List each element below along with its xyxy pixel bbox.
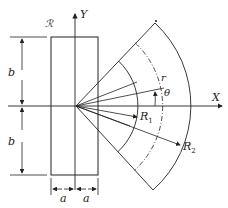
x-axis-label: X xyxy=(211,91,221,104)
dimension-b-bottom-label: b xyxy=(8,135,15,148)
dashed-arc xyxy=(135,43,163,170)
y-axis-label: Y xyxy=(80,8,89,21)
ray-lower-inner xyxy=(76,106,130,126)
ray-r xyxy=(76,88,164,106)
diagram-canvas: ℛ Y X b b a a r θ R1 R2 xyxy=(0,0,228,208)
dimension-a-left-label: a xyxy=(60,192,67,205)
R2-label: R2 xyxy=(182,140,196,155)
R1-label: R1 xyxy=(139,110,153,125)
region-label: ℛ xyxy=(45,18,54,29)
outer-arc xyxy=(153,23,191,190)
theta-label: θ xyxy=(164,87,170,98)
ray-upper-inner xyxy=(76,82,137,106)
sector-edge-upper xyxy=(76,23,155,106)
dimension-a-right-label: a xyxy=(83,192,90,205)
apex-mark xyxy=(155,20,157,22)
radius-r-label: r xyxy=(161,72,167,83)
dimension-b-top-label: b xyxy=(8,66,15,79)
